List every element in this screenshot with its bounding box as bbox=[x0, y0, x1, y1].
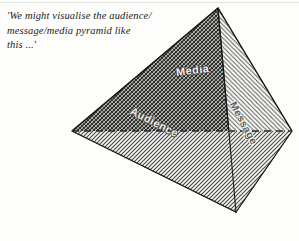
pyramid-diagram bbox=[0, 0, 299, 241]
figure-page: 'We might visualise the audience/ messag… bbox=[0, 0, 299, 241]
pyramid-face-base bbox=[72, 131, 292, 212]
